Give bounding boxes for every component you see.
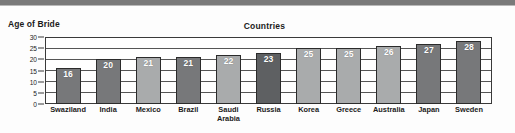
bar-brazil[interactable]: 21 [176,57,201,104]
bar-slot: 25 [289,37,329,104]
x-label-saudi-arabia: Saudi Arabia [208,106,248,123]
y-tick-label-30: 30 [30,34,37,41]
x-label-mexico: Mexico [128,106,168,123]
x-label-russia: Russia [248,106,288,123]
y-tick-mark-5 [38,92,44,93]
bar-value-label: 22 [224,57,234,66]
y-tick-mark-15 [38,70,44,71]
bar-value-label: 26 [384,48,394,57]
y-tick-label-5: 5 [33,89,37,96]
figure-canvas: Age of Bride Countries 051015202530 1620… [0,6,515,133]
bar-greece[interactable]: 25 [336,48,361,104]
bar-korea[interactable]: 25 [296,48,321,104]
bar-value-label: 25 [304,50,314,59]
bar-series: 1620212122232525262728 [45,37,492,104]
y-tick-mark-25 [38,48,44,49]
y-tick-label-25: 25 [30,45,37,52]
y-tick-mark-20 [38,59,44,60]
y-axis-ticks: 051015202530 [0,37,45,104]
x-label-india: India [88,106,128,123]
y-tick-label-10: 10 [30,78,37,85]
bar-value-label: 28 [464,43,474,52]
bar-slot: 22 [208,37,248,104]
bar-value-label: 16 [63,70,73,79]
bar-value-label: 25 [344,50,354,59]
chart-title: Countries [0,21,515,31]
y-tick-label-15: 15 [30,67,37,74]
bar-australia[interactable]: 26 [376,46,401,104]
bar-slot: 23 [248,37,288,104]
bar-slot: 21 [128,37,168,104]
y-tick-label-0: 0 [33,101,37,108]
bar-value-label: 20 [103,61,113,70]
y-tick-mark-10 [38,81,44,82]
bar-slot: 16 [48,37,88,104]
bar-slot: 25 [329,37,369,104]
x-axis-category-labels: SwazilandIndiaMexicoBrazilSaudi ArabiaRu… [45,106,492,123]
x-label-swaziland: Swaziland [48,106,88,123]
bar-slot: 21 [168,37,208,104]
chart-figure: Age of Bride Countries 051015202530 1620… [0,0,515,133]
x-label-japan: Japan [409,106,449,123]
bar-sweden[interactable]: 28 [456,41,481,104]
x-label-greece: Greece [329,106,369,123]
bar-saudi-arabia[interactable]: 22 [216,55,241,104]
bar-value-label: 23 [264,55,274,64]
bar-value-label: 21 [143,59,153,68]
x-label-korea: Korea [289,106,329,123]
bar-japan[interactable]: 27 [416,44,441,104]
y-tick-mark-30 [38,37,44,38]
y-tick-label-20: 20 [30,56,37,63]
bar-russia[interactable]: 23 [256,53,281,104]
bar-value-label: 27 [424,46,434,55]
bar-mexico[interactable]: 21 [136,57,161,104]
bar-slot: 27 [409,37,449,104]
bar-slot: 28 [449,37,489,104]
x-label-australia: Australia [369,106,409,123]
bar-slot: 26 [369,37,409,104]
x-label-brazil: Brazil [168,106,208,123]
bar-india[interactable]: 20 [96,59,121,104]
x-label-sweden: Sweden [449,106,489,123]
y-tick-mark-0 [38,104,44,105]
bar-swaziland[interactable]: 16 [56,68,81,104]
bar-value-label: 21 [184,59,194,68]
bar-slot: 20 [88,37,128,104]
